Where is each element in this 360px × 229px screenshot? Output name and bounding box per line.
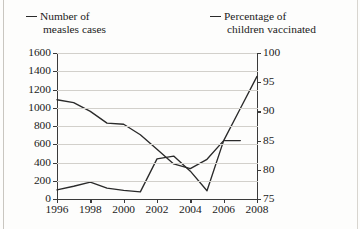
x-axis-tick-label: 2004 — [172, 203, 208, 215]
left-axis-tick — [53, 71, 57, 72]
legend-entry-vaccination: Percentage of children vaccinated — [210, 10, 316, 36]
left-axis-tick-label: 200 — [9, 174, 51, 186]
left-axis-tick — [53, 126, 57, 127]
chart-figure: Number of measles cases Percentage of ch… — [0, 0, 360, 229]
plot-area: 0200400600800100012001400160075808590951… — [57, 53, 258, 200]
x-axis-tick-label: 1998 — [72, 203, 108, 215]
legend-line-swatch-icon — [26, 16, 37, 17]
x-axis-tick-label: 2006 — [206, 203, 242, 215]
gridline — [57, 71, 258, 72]
right-axis-tick-label: 80 — [263, 163, 297, 175]
x-axis-tick-label: 2002 — [139, 203, 175, 215]
left-axis-tick — [53, 163, 57, 164]
legend-label-measles-line2: measles cases — [26, 23, 106, 36]
series-line-measles-cases — [57, 141, 240, 192]
left-axis-tick — [53, 144, 57, 145]
left-axis-tick-label: 600 — [9, 137, 51, 149]
left-axis-tick — [53, 108, 57, 109]
legend-label-measles-line1: Number of — [40, 10, 90, 22]
x-axis-tick-label: 2000 — [106, 203, 142, 215]
left-axis-tick — [53, 181, 57, 182]
right-axis-tick — [257, 141, 261, 142]
legend-line-swatch-icon — [210, 16, 221, 17]
right-axis-tick-label: 90 — [263, 104, 297, 116]
x-axis-tick-label: 1996 — [39, 203, 75, 215]
gridline — [57, 126, 258, 127]
legend-label-vaccination-line1: Percentage of — [224, 10, 286, 22]
left-axis-tick — [53, 90, 57, 91]
left-axis-tick-label: 1600 — [9, 46, 51, 58]
left-axis-tick-label: 800 — [9, 119, 51, 131]
plot-area-wrapper: 0200400600800100012001400160075808590951… — [0, 44, 360, 194]
right-axis-tick — [257, 53, 261, 54]
gridline — [57, 163, 258, 164]
left-axis-tick-label: 1200 — [9, 83, 51, 95]
chart-legend: Number of measles cases Percentage of ch… — [0, 10, 360, 44]
right-axis-tick-label: 95 — [263, 75, 297, 87]
left-axis-tick-label: 1400 — [9, 64, 51, 76]
left-axis-tick-label: 1000 — [9, 101, 51, 113]
right-axis-tick — [257, 111, 261, 112]
legend-entry-measles-cases: Number of measles cases — [26, 10, 106, 36]
gridline — [57, 181, 258, 182]
right-axis-tick-label: 100 — [263, 46, 297, 58]
right-axis-tick-label: 85 — [263, 134, 297, 146]
left-axis-tick — [53, 53, 57, 54]
left-axis-tick-label: 400 — [9, 156, 51, 168]
right-axis-tick — [257, 170, 261, 171]
gridline — [57, 90, 258, 91]
legend-label-vaccination-line2: children vaccinated — [210, 23, 316, 36]
right-axis-tick — [257, 82, 261, 83]
gridline — [57, 144, 258, 145]
gridline — [57, 53, 258, 54]
x-axis-tick-label: 2008 — [239, 203, 275, 215]
gridline — [57, 108, 258, 109]
